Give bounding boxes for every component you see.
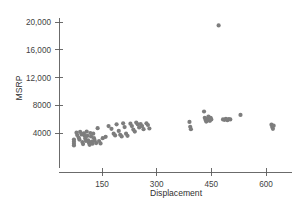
data-point — [217, 23, 221, 27]
data-point — [272, 124, 276, 128]
x-axis-ticks: 150300450600 — [95, 168, 273, 189]
y-tick-label: 8000 — [33, 101, 52, 110]
data-point — [238, 113, 242, 117]
data-point — [228, 117, 232, 121]
y-tick-label: 16,000 — [26, 46, 51, 55]
x-axis-title: Displacement — [150, 188, 203, 198]
data-point — [133, 130, 137, 134]
y-axis: 4000800012,00016,00020,000 MSRP — [14, 18, 63, 168]
x-tick-label: 450 — [204, 180, 218, 189]
y-axis-title: MSRP — [14, 75, 24, 100]
x-axis: 150300450600 Displacement — [59, 168, 292, 198]
data-point — [114, 122, 118, 126]
x-tick-label: 150 — [95, 180, 109, 189]
y-tick-label: 4000 — [33, 129, 52, 138]
data-point — [189, 127, 193, 131]
data-point — [109, 127, 113, 131]
data-point — [125, 134, 129, 138]
data-point — [96, 126, 100, 130]
data-point — [85, 130, 89, 134]
y-axis-ticks: 4000800012,00016,00020,000 — [26, 18, 63, 138]
y-tick-label: 12,000 — [26, 74, 51, 83]
plot-canvas: 4000800012,00016,00020,000 MSRP 15030045… — [0, 0, 300, 209]
data-point — [187, 120, 191, 124]
data-point — [121, 121, 125, 125]
data-point — [147, 126, 151, 130]
y-tick-label: 20,000 — [26, 18, 51, 27]
data-point — [72, 143, 76, 147]
x-tick-label: 600 — [259, 180, 273, 189]
data-point — [98, 141, 102, 145]
data-point — [120, 134, 124, 138]
data-point — [202, 109, 206, 113]
data-points-layer — [72, 23, 276, 147]
data-point — [104, 135, 108, 139]
data-point — [123, 125, 127, 129]
data-point — [117, 129, 121, 133]
data-point — [81, 142, 85, 146]
scatter-plot-figure: 4000800012,00016,00020,000 MSRP 15030045… — [0, 0, 300, 209]
data-point — [209, 117, 213, 121]
data-point — [91, 132, 95, 136]
data-point — [141, 127, 145, 131]
data-point — [113, 133, 117, 137]
